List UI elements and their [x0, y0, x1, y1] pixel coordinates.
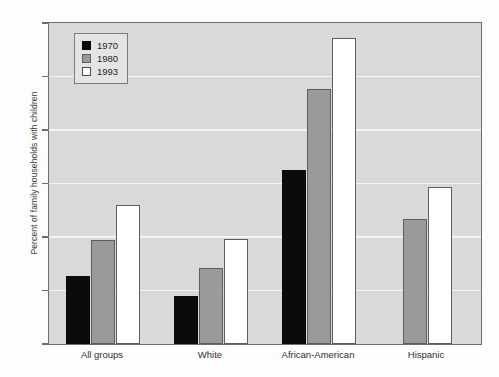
legend-swatch-1993-icon — [82, 67, 91, 76]
y-axis-tick — [42, 183, 49, 184]
bar-1993 — [428, 187, 452, 344]
bar-1993 — [116, 205, 140, 344]
bar-1980 — [403, 219, 427, 344]
y-axis-tick — [42, 22, 49, 23]
legend-swatch-1980-icon — [82, 54, 91, 63]
y-axis-tick — [42, 129, 49, 130]
y-axis-tick — [42, 290, 49, 291]
x-axis-category-label: Hispanic — [372, 349, 480, 360]
bar-1970 — [174, 296, 198, 344]
legend-label: 1980 — [97, 52, 118, 65]
bar-chart-figure: Percent of family households with childr… — [0, 0, 499, 377]
bar-1993 — [332, 38, 356, 344]
legend-label: 1993 — [97, 65, 118, 78]
y-axis-tick — [42, 236, 49, 237]
gridline — [49, 183, 481, 185]
legend-label: 1970 — [97, 39, 118, 52]
bar-1970 — [66, 276, 90, 344]
bar-1980 — [307, 89, 331, 344]
bar-1980 — [91, 240, 115, 344]
x-axis-category-label: African-American — [264, 349, 372, 360]
legend-item: 1970 — [82, 39, 118, 52]
bar-1970 — [282, 170, 306, 344]
legend-item: 1993 — [82, 65, 118, 78]
legend-item: 1980 — [82, 52, 118, 65]
chart-legend: 1970 1980 1993 — [74, 33, 128, 84]
x-axis-category-label: All groups — [48, 349, 156, 360]
gridline — [49, 129, 481, 131]
y-axis-tick — [42, 343, 49, 344]
x-axis-category-label: White — [156, 349, 264, 360]
bar-1993 — [224, 239, 248, 344]
legend-swatch-1970-icon — [82, 41, 91, 50]
y-axis-title: Percent of family households with childr… — [29, 43, 39, 303]
bar-1980 — [199, 268, 223, 345]
y-axis-tick — [42, 76, 49, 77]
